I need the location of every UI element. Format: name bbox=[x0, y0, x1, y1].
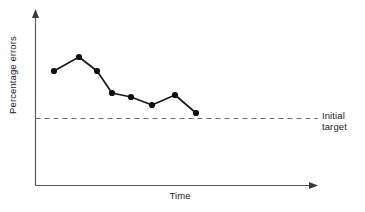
data-point bbox=[109, 90, 115, 96]
data-point bbox=[128, 94, 134, 100]
chart-figure: Percentage errors Time Initial target bbox=[0, 0, 365, 212]
data-point bbox=[76, 54, 82, 60]
x-axis-label: Time bbox=[140, 190, 220, 201]
y-axis-label: Percentage errors bbox=[7, 28, 19, 122]
data-point bbox=[193, 110, 199, 116]
chart-canvas bbox=[0, 0, 365, 212]
initial-target-label-line2: target bbox=[322, 121, 365, 132]
data-point bbox=[149, 102, 155, 108]
percentage-errors-line bbox=[54, 57, 196, 113]
initial-target-label: Initial target bbox=[322, 110, 365, 132]
data-point bbox=[51, 68, 57, 74]
y-axis-arrowhead bbox=[32, 9, 39, 18]
initial-target-label-line1: Initial bbox=[322, 110, 365, 121]
data-point bbox=[172, 92, 178, 98]
data-point bbox=[94, 68, 100, 74]
x-axis-arrowhead bbox=[309, 182, 318, 189]
